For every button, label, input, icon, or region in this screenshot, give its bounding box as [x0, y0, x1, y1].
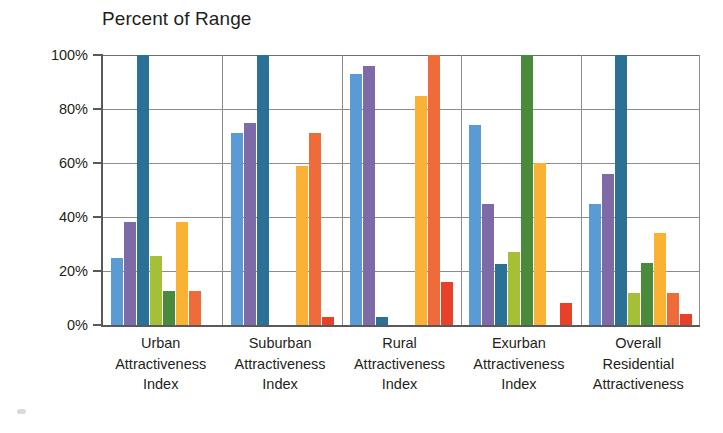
- y-tick-label-0%: 0%: [67, 317, 88, 333]
- y-tick-20%: [93, 270, 103, 272]
- y-tick-100%: [93, 54, 103, 56]
- category-label-line: Attractiveness: [340, 354, 459, 375]
- bar: [521, 55, 533, 325]
- category-label-line: Attractiveness: [579, 374, 698, 395]
- bar: [163, 291, 175, 325]
- bar: [589, 204, 601, 326]
- category-label-line: Attractiveness: [459, 354, 578, 375]
- bar: [350, 74, 362, 325]
- category-label-line: Index: [340, 374, 459, 395]
- x-axis-category-labels: UrbanAttractivenessIndexSuburbanAttracti…: [101, 333, 698, 429]
- bar: [615, 55, 627, 325]
- bar: [189, 291, 201, 325]
- bar: [667, 293, 679, 325]
- bar: [482, 204, 494, 326]
- percent-of-range-bar-chart: Percent of Range 100%80%60%40%20%0% Urba…: [0, 0, 723, 433]
- bar: [560, 303, 572, 325]
- bar: [124, 222, 136, 325]
- bar: [309, 133, 321, 325]
- category-label: OverallResidentialAttractiveness: [579, 333, 698, 395]
- category-label-line: Residential: [579, 354, 698, 375]
- bar: [469, 125, 481, 325]
- plot-area: [101, 55, 700, 327]
- y-tick-label-80%: 80%: [59, 101, 88, 117]
- bar-group: [222, 55, 341, 325]
- category-label-line: Attractiveness: [101, 354, 220, 375]
- bar-group: [342, 55, 461, 325]
- bar: [495, 264, 507, 325]
- category-label: UrbanAttractivenessIndex: [101, 333, 220, 395]
- y-axis: 100%80%60%40%20%0%: [30, 55, 88, 325]
- bar: [441, 282, 453, 325]
- bar: [415, 96, 427, 326]
- bar: [508, 252, 520, 325]
- category-label-line: Urban: [101, 333, 220, 354]
- bar: [137, 55, 149, 325]
- bar-group: [461, 55, 580, 325]
- y-tick-40%: [93, 216, 103, 218]
- bar: [111, 258, 123, 326]
- category-label-line: Index: [459, 374, 578, 395]
- bar: [150, 256, 162, 325]
- bar-group: [103, 55, 222, 325]
- y-tick-label-20%: 20%: [59, 263, 88, 279]
- y-tick-label-100%: 100%: [51, 47, 88, 63]
- category-label: ExurbanAttractivenessIndex: [459, 333, 578, 395]
- bar: [628, 293, 640, 325]
- bar: [641, 263, 653, 325]
- category-label: SuburbanAttractivenessIndex: [220, 333, 339, 395]
- bar: [602, 174, 614, 325]
- y-tick-label-40%: 40%: [59, 209, 88, 225]
- bar: [534, 163, 546, 325]
- category-label-line: Suburban: [220, 333, 339, 354]
- bar: [376, 317, 388, 325]
- scan-artifact: [17, 409, 26, 414]
- bar: [428, 55, 440, 325]
- bar: [244, 123, 256, 326]
- category-label-line: Index: [101, 374, 220, 395]
- bar: [654, 233, 666, 325]
- bar: [176, 222, 188, 325]
- category-label-line: Attractiveness: [220, 354, 339, 375]
- bar: [257, 55, 269, 325]
- bar: [322, 317, 334, 325]
- bar: [680, 314, 692, 325]
- category-label-line: Rural: [340, 333, 459, 354]
- y-tick-label-60%: 60%: [59, 155, 88, 171]
- chart-title: Percent of Range: [102, 8, 251, 30]
- y-tick-0%: [93, 324, 103, 326]
- y-tick-80%: [93, 108, 103, 110]
- bar-group: [581, 55, 700, 325]
- category-label-line: Overall: [579, 333, 698, 354]
- bar: [231, 133, 243, 325]
- bar: [296, 166, 308, 325]
- y-tick-60%: [93, 162, 103, 164]
- bar: [363, 66, 375, 325]
- category-label-line: Exurban: [459, 333, 578, 354]
- category-label-line: Index: [220, 374, 339, 395]
- category-label: RuralAttractivenessIndex: [340, 333, 459, 395]
